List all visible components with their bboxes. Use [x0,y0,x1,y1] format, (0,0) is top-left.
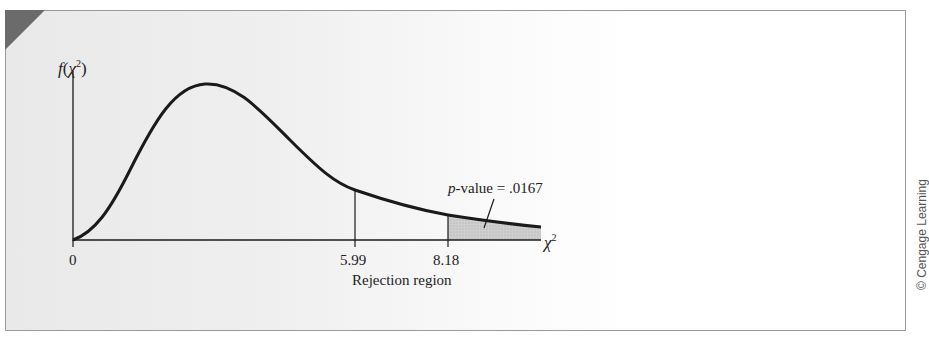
copyright-credit: © Cengage Learning [915,179,929,290]
tick-zero: 0 [69,252,77,269]
y-axis-label: f(χ2) [58,58,87,79]
tick-critical-value: 5.99 [340,252,366,269]
rejection-region-label: Rejection region [352,272,452,289]
x-axis-label: χ2 [544,232,556,253]
tick-test-statistic: 8.18 [433,252,459,269]
density-curve [73,84,541,240]
pvalue-label: p-value = .0167 [448,180,543,197]
